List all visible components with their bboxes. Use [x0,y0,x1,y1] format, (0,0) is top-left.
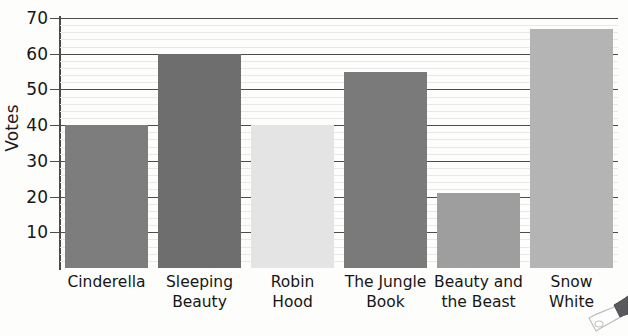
bar [251,125,333,268]
y-axis-tick-label: 20 [2,187,48,207]
x-axis-category-label-line: Hood [246,292,339,312]
y-axis-tick-mark [50,18,60,19]
x-axis-category-label: The JungleBook [339,272,432,312]
plot-area [60,18,618,268]
x-axis-category-label-line: Beauty and [434,273,523,291]
x-axis-category-label: Beauty andthe Beast [432,272,525,312]
y-axis-tick-label: 10 [2,222,48,242]
bar [344,72,426,268]
x-axis-category-label-line: White [525,292,618,312]
x-axis-category-label-line: Beauty [153,292,246,312]
y-axis-tick-mark [50,89,60,90]
y-axis-tick-label: 60 [2,44,48,64]
bar [158,54,240,268]
y-axis-tick-mark [50,197,60,198]
x-axis-category-label-line: Cinderella [67,273,145,291]
bar-chart: Votes 10203040506070 CinderellaSleepingB… [0,0,628,336]
x-axis-category-label-line: the Beast [432,292,525,312]
bar [530,29,612,268]
y-axis-tick-labels: 10203040506070 [0,0,48,336]
bar [65,125,147,268]
x-axis-category-label-line: Robin [271,273,315,291]
gridline-major [60,18,618,19]
bar [437,193,519,268]
y-axis-tick-label: 50 [2,79,48,99]
y-axis-tick-label: 70 [2,8,48,28]
y-axis-tick-label: 40 [2,115,48,135]
x-axis-category-label: Cinderella [60,272,153,292]
x-axis-category-label: RobinHood [246,272,339,312]
y-axis-tick-mark [50,232,60,233]
y-axis-tick-label: 30 [2,151,48,171]
x-axis-category-label-line: Snow [551,273,593,291]
y-axis-tick-mark [50,161,60,162]
x-axis-category-label: SleepingBeauty [153,272,246,312]
x-axis-category-label-line: The Jungle [345,273,427,291]
x-axis-category-label-line: Sleeping [166,273,233,291]
x-axis-tick-labels: CinderellaSleepingBeautyRobinHoodThe Jun… [60,272,618,334]
x-axis-category-label-line: Book [339,292,432,312]
y-axis-tick-mark [50,54,60,55]
gridline-minor [60,25,618,26]
y-axis-tick-mark [50,125,60,126]
x-axis-category-label: SnowWhite [525,272,618,312]
